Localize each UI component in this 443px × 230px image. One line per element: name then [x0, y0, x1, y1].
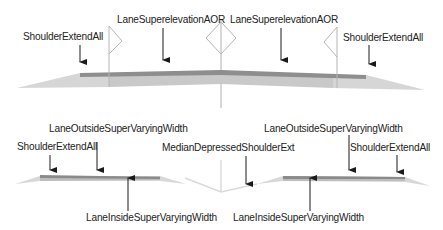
label-median: MedianDepressedShoulderExt	[162, 141, 294, 153]
label-bottom-left-inside-lane: LaneInsideSuperVaryingWidth	[86, 211, 217, 223]
label-bottom-right-shoulder: ShoulderExtendAll	[350, 141, 430, 153]
label-top-left-lane: LaneSuperelevationAOR	[117, 13, 225, 25]
label-bottom-right-outside-lane: LaneOutsideSuperVaryingWidth	[264, 122, 403, 134]
label-top-right-shoulder: ShoulderExtendAll	[343, 31, 423, 43]
label-bottom-left-outside-lane: LaneOutsideSuperVaryingWidth	[49, 122, 188, 134]
label-bottom-right-inside-lane: LaneInsideSuperVaryingWidth	[233, 211, 364, 223]
label-bottom-left-shoulder: ShoulderExtendAll	[17, 140, 97, 152]
label-top-right-lane: LaneSuperelevationAOR	[230, 13, 338, 25]
superelevation-assembly-diagram: ShoulderExtendAll LaneSuperelevationAOR …	[0, 0, 443, 230]
label-top-left-shoulder: ShoulderExtendAll	[23, 30, 103, 42]
bottom-right-lane-band	[283, 176, 405, 179]
